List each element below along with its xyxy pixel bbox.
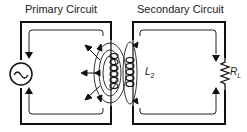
transformer-diagram: Primary Circuit Secondary Circuit [0, 0, 247, 132]
resistor-icon [221, 58, 229, 90]
load-resistor-label: RL [230, 66, 241, 79]
circuit-drawing [0, 0, 247, 132]
secondary-coil-icon [126, 40, 134, 106]
inductor-label: L2 [145, 66, 154, 79]
ac-source-icon [10, 63, 32, 85]
